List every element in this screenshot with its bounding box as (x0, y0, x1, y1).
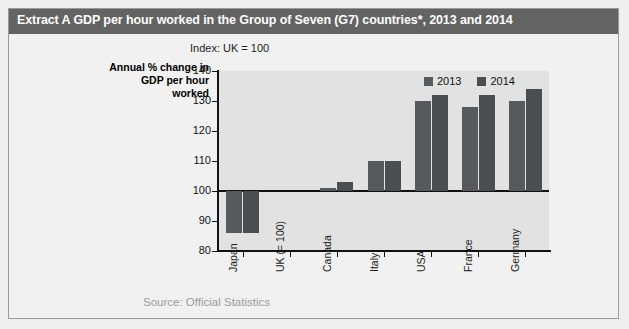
bar-japan-2013 (226, 191, 242, 233)
bar-canada-2013 (320, 188, 336, 191)
page-title: Extract A GDP per hour worked in the Gro… (17, 13, 513, 27)
x-axis-tick-mark (478, 252, 479, 257)
bar-canada-2014 (337, 182, 353, 191)
bar-germany-2013 (509, 101, 525, 191)
y-axis-tick-label: 90 (177, 214, 211, 226)
chart-title-bar: Extract A GDP per hour worked in the Gro… (9, 9, 618, 34)
legend-label: 2013 (437, 75, 461, 87)
x-axis-category-label: Germany (509, 229, 521, 272)
chart-legend: 20132014 (424, 75, 515, 87)
legend-swatch-icon (424, 77, 433, 86)
x-axis-category-label: Canada (321, 235, 333, 272)
y-axis-tick-mark (212, 101, 218, 102)
x-axis-tick-mark (337, 252, 338, 257)
y-axis-tick-label: 100 (177, 184, 211, 196)
y-axis-tick-label: 140 (177, 64, 211, 76)
bar-france-2013 (462, 107, 478, 191)
bar-japan-2014 (243, 191, 259, 233)
x-axis-category-label: UK (= 100) (274, 221, 286, 272)
y-axis-tick-mark (212, 161, 218, 162)
y-axis-tick-mark (212, 71, 218, 72)
legend-swatch-icon (477, 77, 486, 86)
x-axis-tick-mark (243, 252, 244, 257)
legend-label: 2014 (490, 75, 514, 87)
y-axis-tick-label: 120 (177, 124, 211, 136)
x-axis-category-label: Japan (227, 243, 239, 272)
y-axis-tick-mark (212, 221, 218, 222)
bar-italy-2013 (368, 161, 384, 191)
bar-usa-2013 (415, 101, 431, 191)
bar-germany-2014 (526, 89, 542, 191)
source-note: Source: Official Statistics (143, 296, 270, 308)
x-axis-category-label: Italy (368, 253, 380, 272)
x-axis-category-label: France (462, 239, 474, 272)
bar-italy-2014 (385, 161, 401, 191)
y-axis-tick-label: 130 (177, 94, 211, 106)
x-axis-tick-mark (525, 252, 526, 257)
x-axis-tick-mark (431, 252, 432, 257)
legend-item-2014: 2014 (477, 75, 514, 87)
y-axis-tick-mark (212, 251, 218, 252)
bar-usa-2014 (432, 95, 448, 191)
legend-item-2013: 2013 (424, 75, 461, 87)
y-axis-tick-label: 110 (177, 154, 211, 166)
bar-france-2014 (479, 95, 495, 191)
index-note: Index: UK = 100 (190, 42, 269, 54)
x-axis-tick-mark (384, 252, 385, 257)
x-axis-tick-mark (290, 252, 291, 257)
y-axis-tick-mark (212, 131, 218, 132)
y-axis-tick-mark (212, 191, 218, 192)
y-axis-tick-label: 80 (177, 244, 211, 256)
chart-card: Extract A GDP per hour worked in the Gro… (8, 8, 619, 319)
x-axis-category-label: USA (415, 250, 427, 272)
